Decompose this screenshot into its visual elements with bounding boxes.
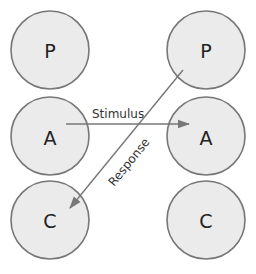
node-label: C <box>199 210 212 232</box>
node-label: C <box>43 210 56 232</box>
right-child-node: C <box>167 181 245 259</box>
left-parent-node: P <box>11 11 89 89</box>
node-label: P <box>200 40 211 62</box>
stimulus-label: Stimulus <box>92 107 144 121</box>
right-parent-node: P <box>167 11 245 89</box>
node-label: A <box>200 127 213 149</box>
node-label: P <box>44 40 55 62</box>
ego-state-diagram: P A C P A C Stimulus Response <box>0 0 256 274</box>
right-adult-node: A <box>167 97 245 175</box>
left-child-node: C <box>11 181 89 259</box>
node-label: A <box>44 127 57 149</box>
left-adult-node: A <box>11 97 89 175</box>
response-label: Response <box>105 135 152 189</box>
